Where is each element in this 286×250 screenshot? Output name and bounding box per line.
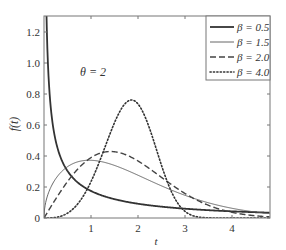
y-tick-label: 1.2 (26, 26, 40, 38)
weibull-pdf-chart: 00.20.40.60.81.01.2 1234 f(t) t θ = 2 β … (0, 0, 286, 250)
curve-beta-4 (44, 100, 270, 218)
x-tick-label: 1 (88, 222, 94, 234)
y-tick-label: 0.8 (26, 88, 40, 100)
x-tick-label: 4 (229, 222, 235, 234)
x-axis-label: t (154, 235, 158, 247)
legend-label: β = 0.5 (236, 21, 270, 33)
y-tick-label: 0.6 (26, 119, 40, 131)
x-tick-label: 2 (135, 222, 141, 234)
y-tick-label: 1.0 (26, 57, 40, 69)
legend-label: β = 2.0 (236, 51, 270, 63)
legend-label: β = 1.5 (236, 36, 270, 48)
theta-annotation: θ = 2 (80, 65, 106, 79)
x-tick-label: 3 (182, 222, 188, 234)
y-tick-label: 0 (35, 212, 41, 224)
y-tick-label: 0.2 (26, 181, 40, 193)
y-axis-label: f(t) (7, 117, 21, 132)
legend: β = 0.5β = 1.5β = 2.0β = 4.0 (206, 16, 270, 80)
y-tick-label: 0.4 (26, 150, 40, 162)
legend-label: β = 4.0 (236, 66, 270, 78)
